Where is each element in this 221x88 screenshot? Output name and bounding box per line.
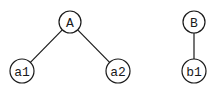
edge-A-a1 [30, 30, 62, 63]
node-B: B [183, 11, 205, 33]
tree-diagram: Aa1a2Bb1 [0, 0, 221, 88]
node-label: b1 [186, 65, 202, 80]
node-a1: a1 [10, 59, 34, 83]
node-label: A [66, 16, 74, 31]
node-A: A [59, 11, 81, 33]
node-label: a2 [110, 65, 126, 80]
edges [30, 30, 194, 63]
node-label: a1 [14, 65, 30, 80]
node-label: B [190, 16, 198, 31]
edge-A-a2 [78, 30, 110, 63]
nodes: Aa1a2Bb1 [10, 11, 206, 83]
node-b1: b1 [182, 59, 206, 83]
node-a2: a2 [106, 59, 130, 83]
